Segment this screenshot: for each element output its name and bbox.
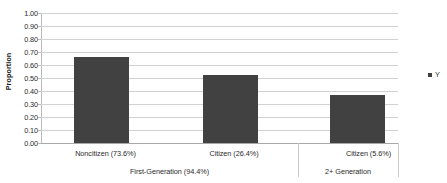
bar-chart: Proportion 1.000.900.800.700.600.500.400… bbox=[0, 0, 447, 183]
y-axis-tickmark bbox=[38, 78, 41, 79]
bar bbox=[74, 57, 129, 143]
y-axis-tickmark bbox=[38, 104, 41, 105]
y-axis-tick-label: 0.40 bbox=[24, 87, 38, 96]
y-axis-tickmark bbox=[38, 65, 41, 66]
y-axis-tick-label: 1.00 bbox=[24, 9, 38, 18]
category-label: Citizen (26.4%) bbox=[170, 149, 298, 158]
chart-legend: Y bbox=[428, 70, 447, 79]
category-label: Citizen (5.6%) bbox=[298, 149, 439, 158]
y-axis-tick-label: 0.00 bbox=[24, 139, 38, 148]
group-label: First-Generation (94.4%) bbox=[41, 167, 298, 176]
y-axis-tick-label: 0.90 bbox=[24, 22, 38, 31]
y-axis-tickmark bbox=[38, 52, 41, 53]
y-axis-tick-label: 0.30 bbox=[24, 100, 38, 109]
bar bbox=[203, 75, 258, 143]
y-axis-tick-label: 0.10 bbox=[24, 126, 38, 135]
y-axis-tickmark bbox=[38, 143, 41, 144]
y-axis-tick-label: 0.20 bbox=[24, 113, 38, 122]
y-axis-tickmark bbox=[38, 130, 41, 131]
axis-baseline bbox=[41, 143, 398, 144]
y-axis-tickmark bbox=[38, 39, 41, 40]
y-axis-tickmark bbox=[38, 117, 41, 118]
y-axis-tick-label: 0.60 bbox=[24, 61, 38, 70]
y-axis-tick-label: 0.50 bbox=[24, 74, 38, 83]
gridline bbox=[41, 52, 398, 53]
y-axis-tickmark bbox=[38, 26, 41, 27]
gridline bbox=[41, 26, 398, 27]
y-axis-tick-label: 0.70 bbox=[24, 48, 38, 57]
y-axis-tickmark bbox=[38, 91, 41, 92]
category-label: Noncitizen (73.6%) bbox=[41, 149, 170, 158]
y-axis-tick-label: 0.80 bbox=[24, 35, 38, 44]
y-axis-tick-labels: 1.000.900.800.700.600.500.400.300.200.10… bbox=[14, 13, 40, 143]
legend-label: Y bbox=[435, 70, 440, 79]
bar bbox=[330, 95, 385, 143]
group-label: 2+ Generation bbox=[298, 167, 398, 176]
y-axis-title-label: Proportion bbox=[5, 53, 14, 91]
legend-swatch-icon bbox=[428, 73, 432, 77]
y-axis-tickmark bbox=[38, 13, 41, 14]
plot-area bbox=[41, 13, 398, 143]
gridline bbox=[41, 13, 398, 14]
gridline bbox=[41, 39, 398, 40]
